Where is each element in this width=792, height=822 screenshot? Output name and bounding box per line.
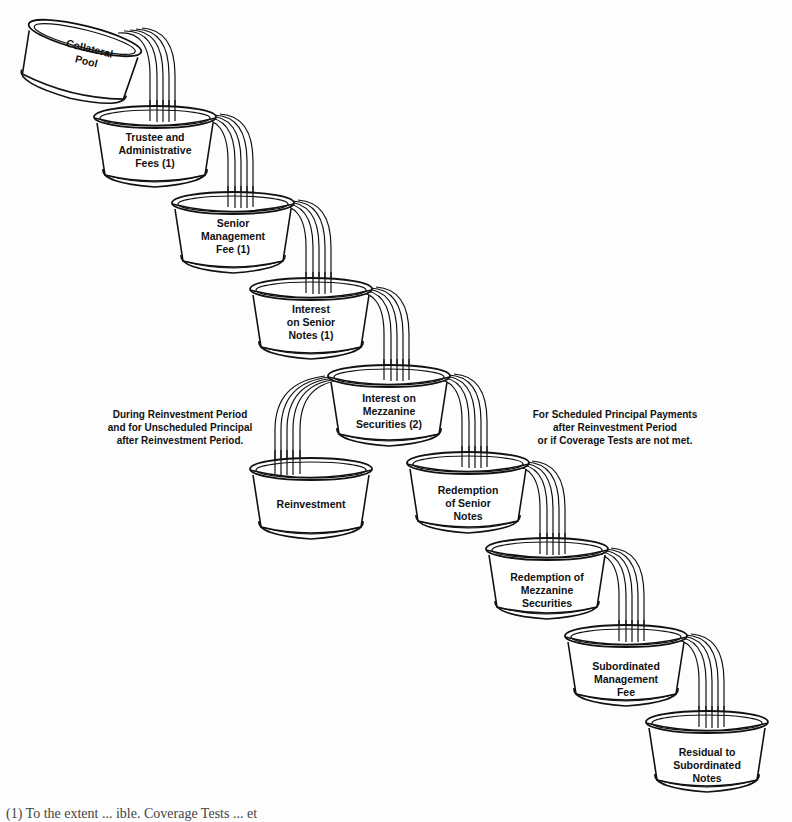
note-reinvestment-condition: During Reinvestment Period and for Unsch… bbox=[95, 408, 265, 447]
note-redemption-condition: For Scheduled Principal Payments after R… bbox=[515, 408, 715, 447]
label-subordinated-management-fee: Subordinated Management Fee bbox=[576, 660, 676, 699]
label-reinvestment: Reinvestment bbox=[261, 498, 361, 511]
label-residual-subordinated-notes: Residual to Subordinated Notes bbox=[657, 746, 757, 785]
label-redemption-mezzanine: Redemption of Mezzanine Securities bbox=[497, 571, 597, 610]
label-senior-management-fee: Senior Management Fee (1) bbox=[183, 217, 283, 256]
label-redemption-senior-notes: Redemption of Senior Notes bbox=[418, 484, 518, 523]
label-trustee-fees: Trustee and Administrative Fees (1) bbox=[105, 131, 205, 170]
label-interest-senior-notes: Interest on Senior Notes (1) bbox=[261, 303, 361, 342]
label-interest-mezzanine: Interest on Mezzanine Securities (2) bbox=[339, 392, 439, 431]
footnote-partial: (1) To the extent ... ible. Coverage Tes… bbox=[6, 806, 257, 822]
